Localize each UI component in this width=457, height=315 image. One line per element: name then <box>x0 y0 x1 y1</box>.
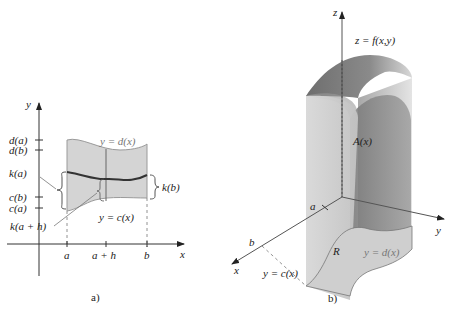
lower-curve-label: y = c(x) <box>98 211 134 224</box>
cross-section-slice <box>350 95 411 242</box>
caption-a: a) <box>91 291 100 304</box>
y-axis-label: y <box>25 98 31 110</box>
x-tick-a-label: a <box>310 200 316 212</box>
x-axis-label: x <box>179 248 185 260</box>
figure-a: y x d(a) d(b) k(a) c(b) c(a) k(a + h) a … <box>7 98 185 304</box>
right-brace <box>150 175 159 199</box>
k-b-label: k(b) <box>162 181 180 194</box>
left-brace <box>57 172 66 209</box>
upper-curve-label: y = d(x) <box>99 135 136 148</box>
k-ah-label: k(a + h) <box>10 220 46 233</box>
figure-canvas: y x d(a) d(b) k(a) c(b) c(a) k(a + h) a … <box>0 0 457 315</box>
k-a-callout <box>40 177 56 189</box>
upper-boundary-label: y = d(x) <box>363 246 400 259</box>
y-axis-3d-label: y <box>435 224 441 236</box>
x-axis-3d-label: x <box>233 264 239 276</box>
tick-label-ka: k(a) <box>9 167 27 180</box>
lower-boundary-label: y = c(x) <box>262 267 298 280</box>
figure-b: z z = f(x,y) A(x) a b R y = d(x) y = c(x… <box>232 6 444 305</box>
x-tick-label-ah: a + h <box>92 249 116 261</box>
caption-b: b) <box>328 292 338 305</box>
x-tick-label-a: a <box>64 249 70 261</box>
x-tick-label-b: b <box>144 249 150 261</box>
cross-section-label: A(x) <box>352 135 372 148</box>
tick-label-db: d(b) <box>9 144 28 157</box>
x-tick-b-label: b <box>249 236 255 248</box>
z-axis-label: z <box>332 6 338 18</box>
tick-label-ca: c(a) <box>9 202 27 215</box>
dashed-b-3d <box>262 246 306 286</box>
surface-label: z = f(x,y) <box>354 34 395 47</box>
region-label: R <box>332 245 340 257</box>
